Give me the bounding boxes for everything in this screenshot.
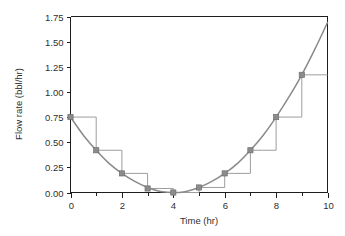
y-axis-title: Flow rate (bbl/hr) bbox=[13, 68, 24, 140]
data-point-marker bbox=[196, 185, 201, 190]
data-point-marker bbox=[299, 72, 304, 77]
y-tick-label: 0.00 bbox=[45, 188, 64, 199]
x-axis-title: Time (hr) bbox=[180, 215, 218, 226]
y-tick-label: 1.00 bbox=[45, 87, 64, 98]
chart-canvas: 0.000.250.500.751.001.251.501.75 0246810… bbox=[0, 0, 345, 236]
data-point-marker bbox=[145, 186, 150, 191]
x-tick-label: 6 bbox=[223, 200, 228, 211]
y-tick-label: 0.75 bbox=[45, 112, 64, 123]
y-tick-label: 1.50 bbox=[45, 37, 64, 48]
data-point-marker bbox=[119, 171, 124, 176]
data-point-marker bbox=[274, 114, 279, 119]
flow-rate-chart-figure: 0.000.250.500.751.001.251.501.75 0246810… bbox=[0, 0, 345, 236]
data-point-marker bbox=[171, 190, 176, 195]
y-tick-label: 1.25 bbox=[45, 62, 64, 73]
data-point-marker bbox=[248, 148, 253, 153]
y-tick-label: 0.50 bbox=[45, 137, 64, 148]
data-point-marker bbox=[94, 148, 99, 153]
y-tick-label: 0.25 bbox=[45, 162, 64, 173]
data-point-marker bbox=[222, 171, 227, 176]
y-tick-label: 1.75 bbox=[45, 12, 64, 23]
x-tick-label: 10 bbox=[323, 200, 334, 211]
x-tick-label: 4 bbox=[171, 200, 176, 211]
x-tick-label: 8 bbox=[274, 200, 279, 211]
x-tick-label: 2 bbox=[120, 200, 125, 211]
x-tick-label: 0 bbox=[69, 200, 74, 211]
data-point-marker bbox=[68, 114, 73, 119]
